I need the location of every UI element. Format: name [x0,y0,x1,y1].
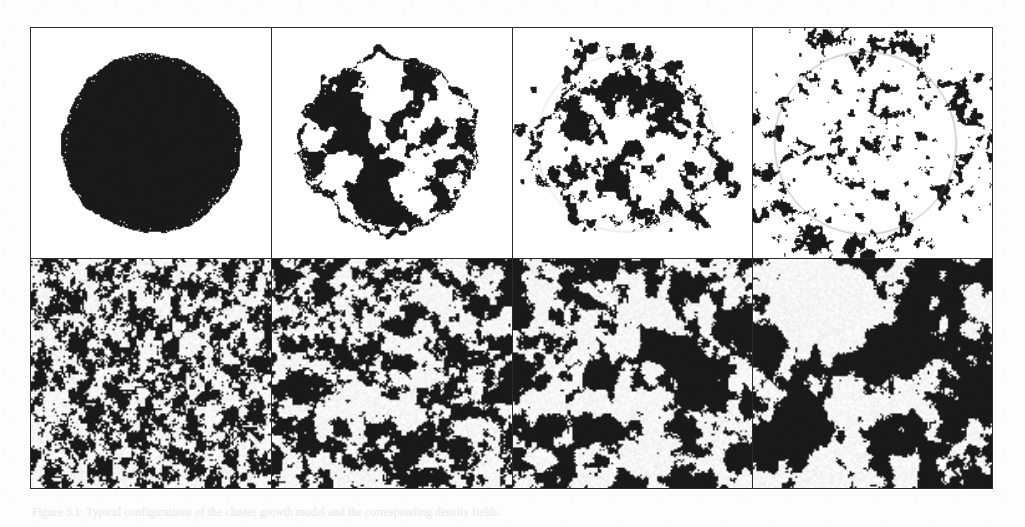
panel-canvas-density-1 [31,259,271,488]
panel-density-4 [752,258,992,488]
panel-canvas-cluster-2 [272,28,511,258]
panel-canvas-cluster-3 [513,28,752,258]
panel-canvas-density-4 [753,259,992,488]
panel-grid [30,27,993,489]
figure-caption: Figure 3.1: Typical configurations of th… [32,505,992,520]
panel-density-3 [512,258,752,488]
panel-canvas-cluster-4 [753,28,992,258]
panel-cluster-1 [31,28,271,258]
panel-cluster-3 [512,28,752,258]
panel-density-2 [271,258,511,488]
figure-root: Figure 3.1: Typical configurations of th… [0,0,1025,527]
panel-cluster-4 [752,28,992,258]
panel-cluster-2 [271,28,511,258]
panel-density-1 [31,258,271,488]
panel-canvas-density-2 [272,259,511,488]
panel-canvas-cluster-1 [31,28,271,258]
panel-canvas-density-3 [513,259,752,488]
